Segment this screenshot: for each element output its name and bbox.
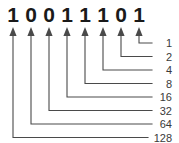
place-value-label-128: 128 <box>132 133 172 143</box>
place-value-label-2: 2 <box>132 52 172 63</box>
place-value-label-8: 8 <box>132 79 172 90</box>
place-value-label-4: 4 <box>132 65 172 76</box>
place-value-label-1: 1 <box>132 38 172 49</box>
place-value-label-32: 32 <box>132 106 172 117</box>
binary-place-value-diagram: 1 0 0 1 1 1 0 1 1 <box>0 0 179 142</box>
place-value-label-16: 16 <box>132 92 172 103</box>
place-value-label-64: 64 <box>132 119 172 130</box>
place-value-label-column: 1 2 4 8 16 32 64 128 <box>0 0 179 142</box>
